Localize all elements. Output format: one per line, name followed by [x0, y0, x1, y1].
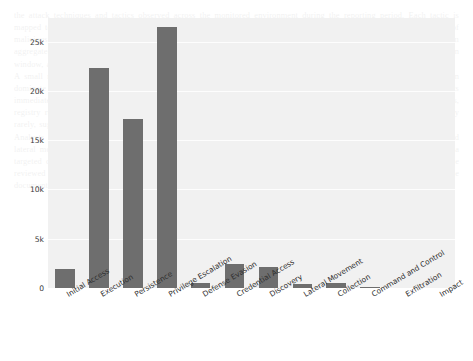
bar[interactable] [123, 119, 143, 288]
y-axis-tick-label: 5k [4, 234, 44, 243]
bars-layer [48, 18, 455, 288]
y-axis-tick-label: 20k [4, 86, 44, 95]
bar[interactable] [89, 68, 109, 288]
y-axis-tick-label: 25k [4, 37, 44, 46]
y-axis-tick-label: 0 [4, 284, 44, 293]
y-axis-tick-label: 15k [4, 136, 44, 145]
bar[interactable] [157, 27, 177, 288]
bar[interactable] [55, 269, 75, 288]
bar-chart-figure: the attack techniques and tactics observ… [0, 0, 473, 361]
y-axis-tick-label: 10k [4, 185, 44, 194]
